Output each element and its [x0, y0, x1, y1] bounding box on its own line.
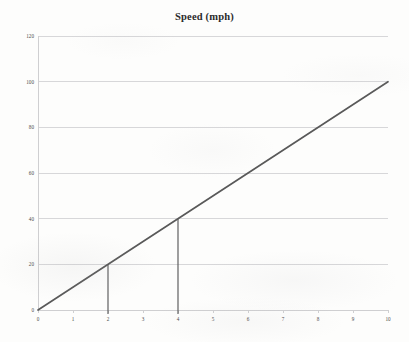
- speed-line-chart: Speed (mph) 020406080100120 012345678910: [0, 0, 409, 342]
- x-tick-label-10: 10: [385, 316, 390, 322]
- x-tick-label-8: 8: [317, 316, 320, 322]
- y-tick-label-80: 80: [2, 124, 34, 130]
- drop-lines: [108, 219, 178, 314]
- series-line-0: [38, 82, 388, 310]
- x-tick-label-2: 2: [107, 316, 110, 322]
- x-tick-label-4: 4: [177, 316, 180, 322]
- y-tick-label-60: 60: [2, 170, 34, 176]
- plot-canvas: [0, 0, 409, 342]
- x-tick-label-0: 0: [37, 316, 40, 322]
- x-tick-label-9: 9: [352, 316, 355, 322]
- x-tick-label-1: 1: [72, 316, 75, 322]
- x-tick-label-6: 6: [247, 316, 250, 322]
- x-tick-label-7: 7: [282, 316, 285, 322]
- gridlines: [38, 36, 388, 264]
- x-tick-label-3: 3: [142, 316, 145, 322]
- y-tick-label-40: 40: [2, 216, 34, 222]
- y-tick-label-120: 120: [2, 33, 34, 39]
- x-tick-label-5: 5: [212, 316, 215, 322]
- data-series: [38, 82, 388, 310]
- y-tick-label-20: 20: [2, 261, 34, 267]
- y-tick-label-0: 0: [2, 307, 34, 313]
- y-tick-label-100: 100: [2, 79, 34, 85]
